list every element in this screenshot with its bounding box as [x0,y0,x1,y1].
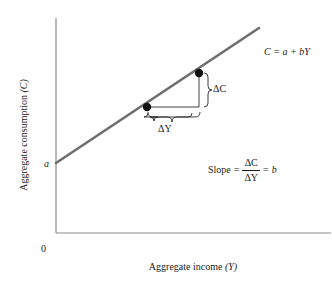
y-axis-title-main: Aggregate consumption [18,95,29,191]
y-axis-title-variable: (C) [18,79,29,92]
slope-equals-first: = [234,165,240,175]
origin-label-zero: 0 [41,244,46,254]
slope-fraction: ΔC ΔY [242,157,260,183]
delta-c-brace [204,73,212,107]
consumption-equation-label: C = a + bY [264,47,310,57]
chart-canvas [0,0,332,288]
x-axis-title: Aggregate income (Y) [56,262,330,272]
slope-result: b [272,165,277,175]
lower-data-point [143,103,151,111]
intercept-label-a: a [44,159,49,169]
consumption-function-line [56,28,259,163]
slope-numerator: ΔC [243,157,260,170]
upper-data-point [195,69,203,77]
consumption-function-chart: Aggregate consumption (C) Aggregate inco… [0,0,332,288]
slope-formula: Slope = ΔC ΔY = b [208,157,277,183]
delta-y-label: ΔY [158,124,172,134]
y-axis-title: Aggregate consumption (C) [19,45,29,225]
slope-equals-second: = [263,165,269,175]
x-axis-title-main: Aggregate income [149,261,223,272]
delta-c-label: ΔC [213,84,226,94]
slope-denominator: ΔY [242,170,260,184]
slope-prefix: Slope [208,165,231,175]
x-axis-title-variable: (Y) [225,261,237,272]
